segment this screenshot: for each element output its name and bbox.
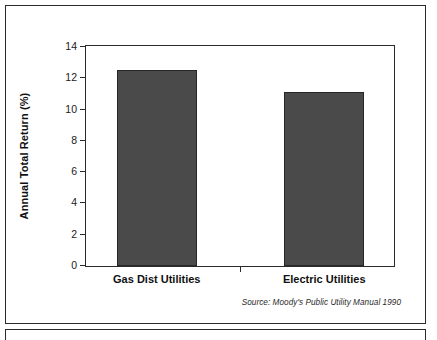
y-axis-tick-label: 6 [71, 166, 77, 177]
bar-1 [284, 92, 364, 266]
y-axis-tick-label: 8 [71, 135, 77, 146]
bar-0 [117, 70, 197, 266]
y-axis-tick [80, 234, 86, 235]
y-axis-tick [80, 202, 86, 203]
figure-root: Annual Total Return (%) 02468101214Gas D… [0, 0, 437, 340]
y-axis-tick-label: 2 [71, 228, 77, 239]
x-axis-category-label: Gas Dist Utilities [113, 273, 200, 285]
source-note: Source: Moody's Public Utility Manual 19… [242, 298, 401, 307]
y-axis-tick [80, 109, 86, 110]
plot-inner: 02468101214Gas Dist UtilitiesElectric Ut… [86, 46, 394, 266]
y-axis-tick-label: 12 [65, 72, 77, 83]
y-axis-tick [80, 140, 86, 141]
x-axis-tick [240, 266, 241, 272]
y-axis-tick [80, 171, 86, 172]
y-axis-tick-label: 10 [65, 103, 77, 114]
y-axis-tick-label: 14 [65, 41, 77, 52]
y-axis-tick-label: 4 [71, 197, 77, 208]
y-axis-tick-label: 0 [71, 260, 77, 271]
y-axis-tick [80, 46, 86, 47]
figure-outer-border: Annual Total Return (%) 02468101214Gas D… [5, 5, 426, 324]
y-axis-tick [80, 265, 86, 266]
x-axis-category-label: Electric Utilities [283, 273, 366, 285]
y-axis-tick [80, 77, 86, 78]
next-section-border [5, 329, 426, 340]
y-axis-title: Annual Total Return (%) [18, 93, 30, 220]
plot-frame: 02468101214Gas Dist UtilitiesElectric Ut… [85, 45, 395, 267]
bar-chart: Annual Total Return (%) 02468101214Gas D… [6, 6, 427, 325]
